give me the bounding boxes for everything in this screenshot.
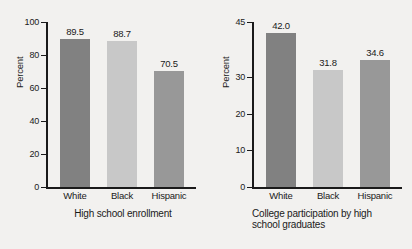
y-tick-label: 45 [235,17,245,27]
y-tick [41,121,46,122]
bar-black[interactable]: 31.8 [313,70,343,187]
y-axis-label: Percent [220,57,231,88]
chart-caption: College participation by high school gra… [252,208,410,230]
chart-caption: High school enrollment [48,208,198,219]
x-axis-line [252,187,402,189]
x-category-label-hispanic: Hispanic [152,190,187,201]
x-category-label-black: Black [111,190,133,201]
chart-panel-high-school-enrollment: Percent 0 20 40 60 80 100 89.5 White [0,0,206,249]
bar-value-label: 42.0 [272,20,290,31]
bar-white[interactable]: 89.5 [60,39,90,187]
bar-value-label: 88.7 [113,28,131,39]
y-tick-label: 20 [29,149,39,159]
bar-value-label: 34.6 [366,47,384,58]
y-tick-label: 40 [29,116,39,126]
y-tick-label: 10 [235,145,245,155]
y-tick-label: 80 [29,50,39,60]
bar-group: 42.0 White 31.8 Black 34.6 Hispanic [254,22,402,187]
bar-hispanic[interactable]: 70.5 [154,71,184,187]
plot-area: 0 20 40 60 80 100 89.5 White 88.7 Black [46,22,182,189]
bar-white[interactable]: 42.0 [266,33,296,187]
chart-panel-college-participation: Percent 0 10 20 30 45 42.0 White 31.8 [206,0,412,249]
x-category-label-white: White [63,190,86,201]
plot-area: 0 10 20 30 45 42.0 White 31.8 Black [252,22,388,189]
y-tick-label: 100 [25,17,39,27]
y-tick [41,154,46,155]
y-tick [247,77,252,78]
y-tick [247,22,252,23]
bar-value-label: 70.5 [160,58,178,69]
y-tick [247,187,252,188]
y-tick-label: 60 [29,83,39,93]
x-category-label-hispanic: Hispanic [358,190,393,201]
bar-group: 89.5 White 88.7 Black 70.5 Hispanic [48,22,196,187]
y-tick [41,55,46,56]
y-axis-label: Percent [14,57,25,88]
x-category-label-black: Black [317,190,339,201]
y-tick-label: 30 [235,72,245,82]
figure-container: Percent 0 20 40 60 80 100 89.5 White [0,0,412,249]
bar-value-label: 31.8 [319,57,337,68]
y-tick [41,22,46,23]
x-axis-line [46,187,196,189]
y-tick [247,150,252,151]
bar-value-label: 89.5 [66,26,84,37]
y-tick-label: 0 [240,182,245,192]
y-tick-label: 20 [235,109,245,119]
y-tick-label: 0 [34,182,39,192]
bar-black[interactable]: 88.7 [107,41,137,187]
y-tick [41,187,46,188]
bar-hispanic[interactable]: 34.6 [360,60,390,187]
y-tick [41,88,46,89]
y-tick [247,114,252,115]
x-category-label-white: White [269,190,292,201]
